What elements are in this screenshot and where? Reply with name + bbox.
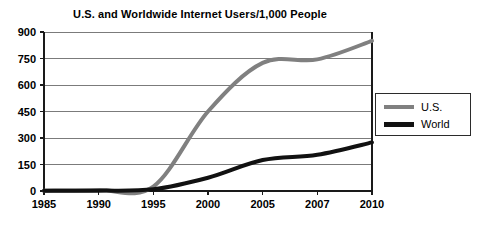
- y-axis-tick-label: 150: [18, 159, 36, 171]
- gridlines-group: [44, 32, 372, 165]
- x-axis-labels-group: 1985199019952000200520072010: [32, 198, 384, 210]
- x-axis-tick-label: 2010: [360, 198, 384, 210]
- y-axis-tick-label: 0: [30, 185, 36, 197]
- legend-swatch-world: [384, 122, 414, 127]
- y-axis-tick-label: 600: [18, 79, 36, 91]
- series-line-world: [44, 142, 372, 190]
- series-line-u-s: [44, 41, 372, 193]
- x-axis-tick-label: 2000: [196, 198, 220, 210]
- y-axis-tick-label: 900: [18, 26, 36, 38]
- x-axis-tick-label: 1985: [32, 198, 56, 210]
- y-axis-tick-label: 300: [18, 132, 36, 144]
- chart-container: U.S. and Worldwide Internet Users/1,000 …: [0, 0, 486, 232]
- y-axis-tick-label: 450: [18, 106, 36, 118]
- legend-swatch-us: [384, 105, 414, 109]
- y-axis-labels-group: 0150300450600750900: [18, 26, 36, 197]
- chart-legend: U.S. World: [375, 93, 471, 136]
- legend-label-world: World: [421, 118, 450, 130]
- legend-label-us: U.S.: [421, 101, 442, 113]
- legend-item-us: U.S.: [384, 101, 442, 113]
- x-axis-tick-label: 1990: [86, 198, 110, 210]
- data-series-group: [44, 41, 372, 193]
- x-axis-tick-label: 1995: [141, 198, 165, 210]
- y-axis-tick-label: 750: [18, 53, 36, 65]
- legend-item-world: World: [384, 118, 450, 130]
- x-axis-tick-label: 2005: [250, 198, 274, 210]
- x-axis-tick-label: 2007: [305, 198, 329, 210]
